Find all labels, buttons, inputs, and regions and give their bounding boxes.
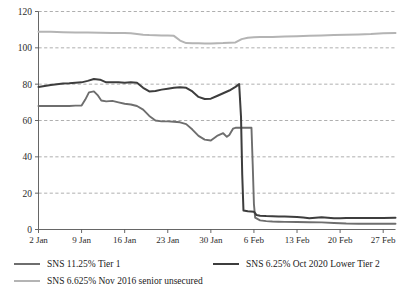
y-tick-label: 120 (18, 7, 33, 17)
y-tick-label: 20 (23, 189, 33, 199)
chart-legend: SNS 11.25% Tier 1 SNS 6.25% Oct 2020 Low… (0, 252, 403, 295)
legend-item-tier-1: SNS 11.25% Tier 1 (14, 256, 121, 272)
y-tick-label: 60 (23, 116, 33, 126)
legend-swatch-tier-1 (14, 263, 40, 265)
legend-swatch-lower-tier-2 (213, 263, 239, 265)
y-tick-label: 0 (27, 225, 32, 235)
y-tick-label: 80 (23, 80, 33, 90)
x-tick-label: 9 Jan (72, 235, 91, 245)
plot-area: 120100806040200 2 Jan9 Jan16 Jan23 Jan30… (0, 0, 403, 252)
x-tick-label: 20 Feb (328, 235, 353, 245)
x-tick-label: 6 Feb (244, 235, 265, 245)
legend-item-senior-unsecured: SNS 6.625% Nov 2016 senior unsecured (14, 273, 203, 289)
chart-canvas: 120100806040200 2 Jan9 Jan16 Jan23 Jan30… (0, 0, 403, 252)
x-tick-label: 13 Feb (285, 235, 310, 245)
x-tick-label: 23 Jan (156, 235, 180, 245)
series-line (39, 32, 396, 44)
y-tick-marks (35, 12, 39, 230)
x-tick-marks (39, 230, 384, 234)
y-tick-labels: 120100806040200 (18, 7, 33, 235)
series-line (39, 79, 396, 218)
x-tick-label: 27 Feb (371, 235, 396, 245)
x-tick-label: 2 Jan (29, 235, 48, 245)
x-tick-labels: 2 Jan9 Jan16 Jan23 Jan30 Jan6 Feb13 Feb2… (29, 235, 396, 245)
x-tick-label: 16 Jan (113, 235, 137, 245)
gridlines (39, 12, 396, 194)
legend-label-lower-tier-2: SNS 6.25% Oct 2020 Lower Tier 2 (246, 258, 380, 270)
legend-swatch-senior-unsecured (14, 280, 40, 282)
data-series-layer (39, 32, 396, 224)
y-tick-label: 40 (23, 152, 33, 162)
bond-price-chart: 120100806040200 2 Jan9 Jan16 Jan23 Jan30… (0, 0, 403, 295)
y-tick-label: 100 (18, 43, 33, 53)
legend-item-lower-tier-2: SNS 6.25% Oct 2020 Lower Tier 2 (213, 256, 380, 272)
legend-label-tier-1: SNS 11.25% Tier 1 (47, 258, 121, 270)
x-tick-label: 30 Jan (199, 235, 223, 245)
legend-label-senior-unsecured: SNS 6.625% Nov 2016 senior unsecured (47, 275, 203, 287)
series-line (39, 91, 396, 223)
